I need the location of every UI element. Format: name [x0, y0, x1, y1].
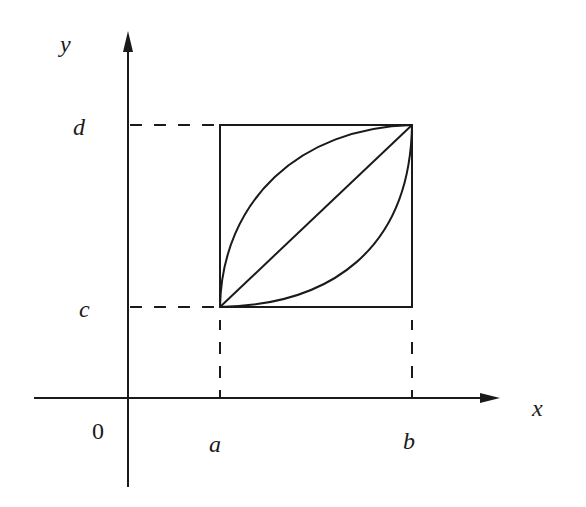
tick-label-c: c [79, 296, 90, 322]
tick-label-a: a [209, 431, 221, 457]
x-axis [34, 393, 500, 403]
diagonal-line [220, 125, 412, 307]
y-axis-label: y [58, 31, 71, 57]
curves [220, 125, 412, 307]
tick-label-b: b [403, 428, 415, 454]
y-axis-arrow-icon [123, 31, 133, 52]
tick-label-d: d [73, 114, 86, 140]
x-axis-arrow-icon [480, 393, 500, 403]
origin-label: 0 [92, 418, 104, 444]
diagram-canvas: y x 0 d c a b [0, 0, 586, 507]
x-axis-label: x [531, 395, 543, 421]
y-axis [123, 31, 133, 487]
